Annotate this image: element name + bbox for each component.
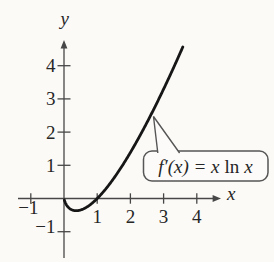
chart-layer: −112341234−1 xyxy=(18,40,221,258)
x-tick-label: 2 xyxy=(126,206,136,227)
x-axis-label: x xyxy=(226,183,236,204)
x-tick-label: 1 xyxy=(92,206,102,227)
y-tick-label: 2 xyxy=(46,122,56,143)
derivative-graph-figure: −112341234−1 x y f′(x) = xlnx xyxy=(0,0,274,262)
x-axis-arrow-icon xyxy=(213,195,221,202)
callout-formula: f′(x) = xlnx xyxy=(158,156,253,178)
y-tick-label: −1 xyxy=(35,216,55,237)
x-tick-label: −1 xyxy=(18,197,38,218)
callout-formula-suffix: x xyxy=(243,156,253,177)
y-axis-label: y xyxy=(59,8,70,29)
formula-callout: f′(x) = xlnx xyxy=(144,116,269,182)
y-axis-arrow-icon xyxy=(61,40,68,48)
graph-canvas: −112341234−1 x y f′(x) = xlnx xyxy=(0,0,274,262)
y-tick-label: 4 xyxy=(46,55,56,76)
y-tick-label: 3 xyxy=(46,88,56,109)
callout-formula-ln: ln xyxy=(225,156,240,177)
callout-formula-prefix: f′(x) = x xyxy=(158,156,220,178)
y-tick-label: 1 xyxy=(46,155,56,176)
x-tick-label: 3 xyxy=(159,206,169,227)
x-tick-label: 4 xyxy=(192,206,202,227)
derivative-curve xyxy=(64,47,183,211)
